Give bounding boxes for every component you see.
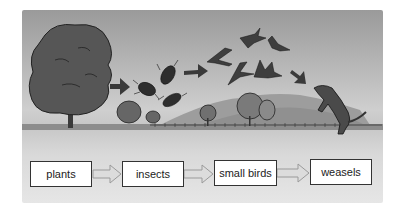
node-label: insects [136, 168, 170, 180]
node-plants: plants [30, 161, 92, 187]
node-label: plants [46, 168, 75, 180]
node-label: small birds [219, 167, 272, 179]
node-insects: insects [122, 161, 184, 187]
node-small-birds: small birds [214, 160, 277, 186]
node-weasels: weasels [310, 159, 372, 185]
arrow-icon [184, 64, 208, 78]
insects-icon [133, 60, 187, 109]
tree-icon [29, 24, 111, 128]
arrow-icon [110, 78, 130, 95]
arrow-icon [290, 70, 306, 84]
birds-icon [207, 28, 290, 85]
node-label: weasels [321, 166, 361, 178]
